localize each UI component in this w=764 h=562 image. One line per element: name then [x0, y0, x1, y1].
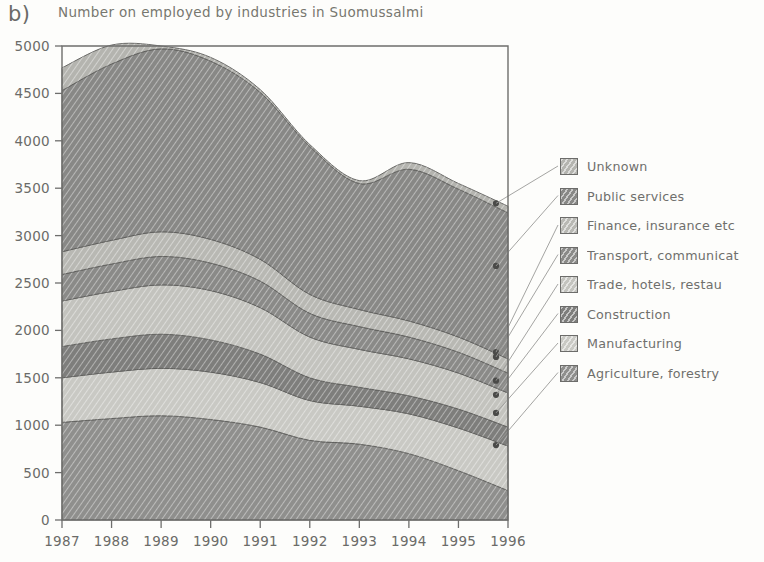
- y-tick-label: 500: [23, 465, 50, 481]
- legend-item-label: Unknown: [587, 159, 648, 174]
- legend-item-label: Trade, hotels, restau: [587, 277, 722, 292]
- legend-item-label: Public services: [587, 189, 684, 204]
- x-tick-label: 1995: [441, 533, 477, 549]
- x-tick-label: 1991: [242, 533, 278, 549]
- legend-item[interactable]: Trade, hotels, restau: [560, 270, 764, 300]
- x-tick-label: 1994: [391, 533, 427, 549]
- x-tick-label: 1992: [292, 533, 328, 549]
- legend-item[interactable]: Finance, insurance etc: [560, 211, 764, 241]
- y-tick-label: 0: [41, 512, 50, 528]
- legend-item[interactable]: Transport, communicat: [560, 241, 764, 271]
- legend-item-label: Agriculture, forestry: [587, 366, 719, 381]
- x-tick-label: 1996: [490, 533, 526, 549]
- legend-item[interactable]: Agriculture, forestry: [560, 359, 764, 389]
- area-bands: [62, 43, 508, 520]
- y-tick-label: 4500: [14, 85, 50, 101]
- legend-item[interactable]: Construction: [560, 300, 764, 330]
- x-tick-label: 1988: [94, 533, 130, 549]
- chart-page: b) Number on employed by industries in S…: [0, 0, 764, 562]
- y-tick-label: 2000: [14, 322, 50, 338]
- x-tick-label: 1987: [44, 533, 80, 549]
- legend-item-label: Transport, communicat: [587, 248, 739, 263]
- y-tick-label: 5000: [14, 38, 50, 54]
- x-axis: 1987198819891990199119921993199419951996: [44, 520, 526, 549]
- y-tick-label: 4000: [14, 133, 50, 149]
- y-tick-label: 3500: [14, 180, 50, 196]
- legend-item-label: Construction: [587, 307, 671, 322]
- legend-swatch-icon: [560, 306, 578, 323]
- y-tick-label: 2500: [14, 275, 50, 291]
- legend-swatch-icon: [560, 247, 578, 264]
- legend-swatch-icon: [560, 335, 578, 352]
- legend-item[interactable]: Public services: [560, 182, 764, 212]
- x-tick-label: 1990: [193, 533, 229, 549]
- x-tick-label: 1989: [143, 533, 179, 549]
- y-tick-label: 1500: [14, 370, 50, 386]
- y-axis: 0500100015002000250030003500400045005000: [14, 38, 62, 528]
- x-tick-label: 1993: [342, 533, 378, 549]
- leader-line: [496, 166, 558, 203]
- legend-swatch-icon: [560, 365, 578, 382]
- legend-swatch-icon: [560, 188, 578, 205]
- y-tick-label: 3000: [14, 228, 50, 244]
- legend-item[interactable]: Manufacturing: [560, 329, 764, 359]
- legend-swatch-icon: [560, 158, 578, 175]
- legend-item-label: Finance, insurance etc: [587, 218, 735, 233]
- y-tick-label: 1000: [14, 417, 50, 433]
- legend-item-label: Manufacturing: [587, 336, 682, 351]
- legend-swatch-icon: [560, 276, 578, 293]
- legend-swatch-icon: [560, 217, 578, 234]
- legend-item[interactable]: Unknown: [560, 152, 764, 182]
- chart-legend: UnknownPublic servicesFinance, insurance…: [560, 152, 764, 388]
